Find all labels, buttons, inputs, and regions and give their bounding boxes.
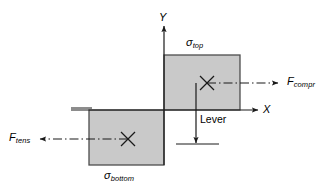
tension-force-symbol: F [9, 131, 16, 143]
sigma-top-label: σtop [186, 37, 203, 50]
sigma-bottom-subscript: bottom [111, 174, 135, 183]
sigma-bottom-symbol: σ [104, 169, 111, 181]
compression-force-symbol: F [287, 75, 294, 87]
diagram-canvas [0, 0, 332, 191]
bending-stress-diagram: Y X σtop σbottom Fcompr Ftens Lever [0, 0, 332, 191]
y-axis-label: Y [159, 12, 166, 23]
sigma-top-symbol: σ [186, 36, 193, 48]
sigma-top-subscript: top [193, 41, 204, 50]
lever-label: Lever [200, 114, 226, 125]
sigma-bottom-label: σbottom [104, 170, 134, 183]
tension-force-subscript: tens [16, 136, 31, 145]
tension-force-label: Ftens [9, 132, 30, 145]
compression-force-subscript: compr [294, 80, 315, 89]
x-axis-label: X [263, 104, 270, 115]
compression-force-label: Fcompr [287, 76, 315, 89]
